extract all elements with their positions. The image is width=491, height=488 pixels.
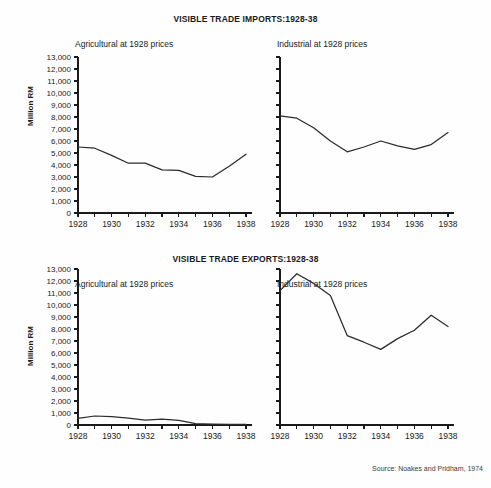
x-tick-label: 1932 <box>136 431 155 441</box>
trade-chart-figure: VISIBLE TRADE IMPORTS:1928-38 Agricultur… <box>0 0 491 488</box>
y-tick-label: 1,000 <box>51 197 72 206</box>
y-tick-label: 12,000 <box>47 65 72 74</box>
data-series-line <box>78 416 246 424</box>
imports-section: VISIBLE TRADE IMPORTS:1928-38 Agricultur… <box>0 0 491 240</box>
x-tick-label: 1938 <box>439 431 458 441</box>
y-tick-label: 3,000 <box>51 173 72 182</box>
data-series-line <box>280 274 448 350</box>
x-tick-label: 1934 <box>371 219 390 229</box>
data-series-line <box>280 116 448 152</box>
exports-plot-area: 01,0002,0003,0004,0005,0006,0007,0008,00… <box>0 240 491 488</box>
x-tick-label: 1934 <box>169 219 188 229</box>
y-tick-label: 13,000 <box>47 265 72 274</box>
y-tick-label: 0 <box>67 421 72 430</box>
y-tick-label: 10,000 <box>47 301 72 310</box>
x-tick-label: 1928 <box>271 219 290 229</box>
x-tick-label: 1930 <box>304 219 323 229</box>
x-tick-label: 1936 <box>203 431 222 441</box>
x-tick-label: 1932 <box>338 219 357 229</box>
y-tick-label: 2,000 <box>51 397 72 406</box>
x-tick-label: 1932 <box>136 219 155 229</box>
y-tick-label: 0 <box>67 209 72 218</box>
exports-agricultural-plot: 01,0002,0003,0004,0005,0006,0007,0008,00… <box>47 265 256 441</box>
y-tick-label: 8,000 <box>51 325 72 334</box>
x-tick-label: 1928 <box>69 431 88 441</box>
y-tick-label: 1,000 <box>51 409 72 418</box>
source-note: Source: Noakes and Pridham, 1974 <box>372 465 483 472</box>
x-tick-label: 1936 <box>405 219 424 229</box>
exports-industrial-plot: 192819301932193419361938 <box>271 269 458 441</box>
y-tick-label: 3,000 <box>51 385 72 394</box>
x-tick-label: 1930 <box>102 219 121 229</box>
x-tick-label: 1928 <box>271 431 290 441</box>
x-tick-label: 1936 <box>405 431 424 441</box>
y-tick-label: 6,000 <box>51 349 72 358</box>
y-tick-label: 9,000 <box>51 313 72 322</box>
y-tick-label: 4,000 <box>51 161 72 170</box>
data-series-line <box>78 147 246 177</box>
x-tick-label: 1938 <box>439 219 458 229</box>
y-tick-label: 11,000 <box>47 77 71 86</box>
exports-section: VISIBLE TRADE EXPORTS:1928-38 Agricultur… <box>0 240 491 488</box>
x-tick-label: 1938 <box>237 219 256 229</box>
y-tick-label: 6,000 <box>51 137 72 146</box>
imports-industrial-plot: 192819301932193419361938 <box>271 57 458 229</box>
imports-plot-area: 01,0002,0003,0004,0005,0006,0007,0008,00… <box>0 0 491 240</box>
x-tick-label: 1936 <box>203 219 222 229</box>
y-tick-label: 10,000 <box>47 89 72 98</box>
y-tick-label: 5,000 <box>51 149 72 158</box>
x-tick-label: 1930 <box>102 431 121 441</box>
y-tick-label: 9,000 <box>51 101 72 110</box>
x-tick-label: 1932 <box>338 431 357 441</box>
y-tick-label: 12,000 <box>47 277 72 286</box>
y-tick-label: 4,000 <box>51 373 72 382</box>
y-tick-label: 11,000 <box>47 289 71 298</box>
imports-agricultural-plot: 01,0002,0003,0004,0005,0006,0007,0008,00… <box>47 53 256 229</box>
x-tick-label: 1928 <box>69 219 88 229</box>
x-tick-label: 1934 <box>169 431 188 441</box>
y-tick-label: 2,000 <box>51 185 72 194</box>
y-tick-label: 8,000 <box>51 113 72 122</box>
x-tick-label: 1930 <box>304 431 323 441</box>
y-tick-label: 7,000 <box>51 337 72 346</box>
y-tick-label: 13,000 <box>47 53 72 62</box>
y-tick-label: 5,000 <box>51 361 72 370</box>
x-tick-label: 1938 <box>237 431 256 441</box>
x-tick-label: 1934 <box>371 431 390 441</box>
y-tick-label: 7,000 <box>51 125 72 134</box>
